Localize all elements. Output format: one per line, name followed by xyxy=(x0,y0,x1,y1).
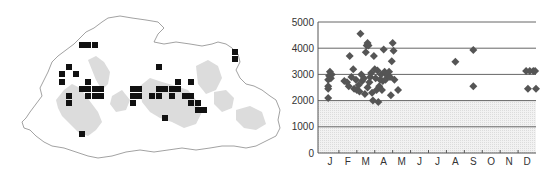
occurrence-marker xyxy=(188,93,194,99)
data-point xyxy=(380,46,388,54)
occurrence-marker xyxy=(92,86,98,92)
x-tick-label: M xyxy=(362,156,370,167)
data-point xyxy=(394,86,402,94)
data-point xyxy=(388,57,396,65)
y-tick-label: 3000 xyxy=(292,69,315,80)
x-tick-label: D xyxy=(523,156,530,167)
occurrence-marker xyxy=(66,93,72,99)
occurrence-marker xyxy=(92,42,98,48)
occurrence-marker xyxy=(85,93,91,99)
occurrence-marker xyxy=(169,93,175,99)
x-tick-label: J xyxy=(327,156,332,167)
occurrence-marker xyxy=(156,93,162,99)
occurrence-marker xyxy=(188,79,194,85)
data-point xyxy=(346,52,354,60)
data-point xyxy=(451,58,459,66)
data-point xyxy=(524,85,532,93)
occurrence-marker xyxy=(85,86,91,92)
occurrence-marker xyxy=(66,64,72,70)
occurrence-marker xyxy=(162,86,168,92)
occurrence-marker xyxy=(85,42,91,48)
occurrence-marker xyxy=(98,93,104,99)
occurrence-marker xyxy=(85,79,91,85)
distribution-map xyxy=(0,0,290,172)
occurrence-marker xyxy=(136,93,142,99)
occurrence-marker xyxy=(66,100,72,106)
x-tick-label: N xyxy=(506,156,513,167)
data-point xyxy=(469,46,477,54)
x-tick-label: A xyxy=(380,156,387,167)
occurrence-marker xyxy=(195,100,201,106)
y-tick-label: 2000 xyxy=(292,95,315,106)
y-tick-label: 4000 xyxy=(292,43,315,54)
occurrence-marker xyxy=(79,86,85,92)
occurrence-marker xyxy=(130,93,136,99)
y-tick-label: 0 xyxy=(308,148,314,159)
x-tick-label: M xyxy=(397,156,405,167)
data-point xyxy=(370,52,378,60)
x-tick-label: S xyxy=(470,156,477,167)
occurrence-marker xyxy=(175,86,181,92)
occurrence-marker xyxy=(195,107,201,113)
occurrence-marker xyxy=(79,42,85,48)
x-tick-label: O xyxy=(487,156,495,167)
occurrence-marker xyxy=(59,71,65,77)
y-tick-label: 1000 xyxy=(292,121,315,132)
occurrence-marker xyxy=(156,86,162,92)
data-points xyxy=(324,30,540,106)
occurrence-marker xyxy=(92,93,98,99)
data-point xyxy=(532,85,540,93)
altitude-scatter-chart: 010002000300040005000 JFMAMJJASOND xyxy=(290,0,557,172)
occurrence-marker xyxy=(169,86,175,92)
data-point xyxy=(387,91,395,99)
y-axis-ticks: 010002000300040005000 xyxy=(292,17,315,159)
x-tick-label: F xyxy=(345,156,351,167)
x-tick-label: A xyxy=(452,156,459,167)
occurrence-marker xyxy=(188,100,194,106)
data-point xyxy=(389,39,397,47)
occurrence-marker xyxy=(79,131,85,137)
y-tick-label: 5000 xyxy=(292,17,315,28)
occurrence-marker xyxy=(136,86,142,92)
occurrence-marker xyxy=(73,71,79,77)
occurrence-marker xyxy=(156,64,162,70)
x-tick-label: J xyxy=(435,156,440,167)
occurrence-marker xyxy=(130,86,136,92)
occurrence-marker xyxy=(149,93,155,99)
occurrence-marker xyxy=(130,100,136,106)
occurrence-marker xyxy=(201,107,207,113)
occurrence-marker xyxy=(182,93,188,99)
occurrence-marker xyxy=(232,56,238,62)
data-point xyxy=(349,65,357,73)
x-tick-label: J xyxy=(417,156,422,167)
occurrence-marker xyxy=(59,79,65,85)
data-point xyxy=(469,82,477,90)
data-point xyxy=(356,30,364,38)
occurrence-marker xyxy=(232,49,238,55)
occurrence-marker xyxy=(98,86,104,92)
occurrence-marker xyxy=(175,79,181,85)
occurrence-marker xyxy=(162,115,168,121)
